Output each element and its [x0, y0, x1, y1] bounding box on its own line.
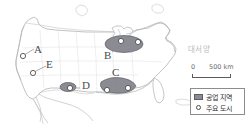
legend-label-city: 주요 도시	[206, 103, 232, 113]
legend: 공업 지역 주요 도시	[190, 88, 245, 115]
city-marker	[104, 87, 109, 92]
canada-fragment-two	[152, 4, 164, 13]
canada-fragment	[76, 5, 88, 16]
scale-bar-graphic	[192, 74, 231, 78]
scale-zero-label: 0	[191, 63, 195, 71]
city-marker	[67, 85, 72, 90]
city-marker	[135, 39, 140, 44]
scale-bar: 0 500 km	[191, 63, 243, 81]
city-marker	[125, 85, 130, 90]
region-label-c: C	[112, 67, 120, 78]
legend-item-industrial: 공업 지역	[194, 91, 241, 102]
scale-max-label: 500 km	[209, 63, 234, 71]
region-label-a: A	[34, 44, 42, 55]
legend-item-city: 주요 도시	[194, 102, 241, 113]
legend-label-industrial: 공업 지역	[206, 92, 232, 102]
city-marker	[118, 38, 123, 43]
region-label-d: D	[82, 80, 90, 91]
region-label-e: E	[46, 59, 53, 70]
city-marker	[30, 70, 35, 75]
florida-peninsula	[153, 78, 164, 103]
region-label-b: B	[104, 50, 112, 61]
scale-numbers: 0 500 km	[191, 63, 243, 72]
major-city-circle-icon	[196, 105, 201, 110]
industrial-area-swatch-icon	[194, 94, 203, 100]
city-marker	[20, 53, 25, 58]
ocean-label-atlantic: 대서양	[188, 43, 210, 54]
map-figure: A B C D E 대서양 0 500 km 공업 지역 주요 도시	[0, 0, 248, 126]
